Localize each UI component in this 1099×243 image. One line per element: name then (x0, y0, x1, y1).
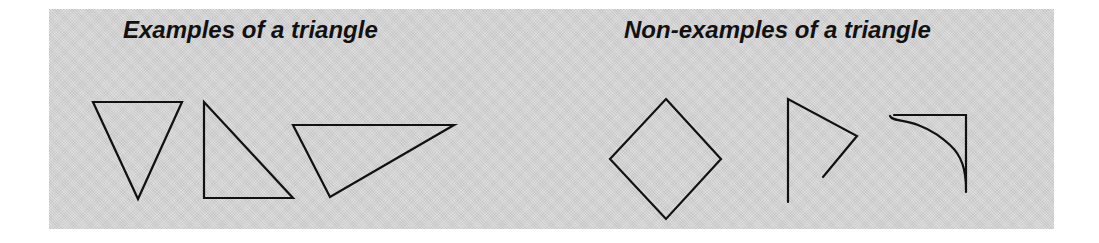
right-triangle (204, 102, 293, 198)
non-examples-group (610, 99, 966, 219)
examples-group (93, 102, 454, 199)
open-figure (788, 99, 857, 202)
curved-side-figure (890, 115, 966, 192)
inverted-triangle (93, 102, 182, 199)
shapes-canvas (0, 0, 1099, 243)
diamond-square (610, 99, 721, 219)
obtuse-triangle (293, 125, 454, 197)
